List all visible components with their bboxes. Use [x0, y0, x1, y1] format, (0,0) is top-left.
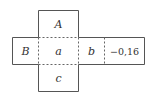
cube-net-diagram: A B a b −0,16 c [0, 0, 152, 97]
cell-top-label: A [54, 18, 63, 31]
cell-center-label: a [55, 45, 62, 58]
cell-far-right-value: −0,16 [110, 46, 139, 57]
cell-left-label: B [20, 45, 29, 58]
cell-bottom-label: c [55, 72, 61, 85]
cell-right-label: b [88, 45, 95, 58]
